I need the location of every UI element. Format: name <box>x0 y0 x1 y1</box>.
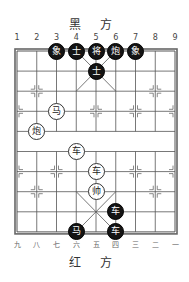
bottom-file-number: 一 <box>169 239 181 249</box>
red-side-label: 红 方 <box>0 253 189 270</box>
black-piece[interactable]: 将 <box>88 43 105 60</box>
black-piece[interactable]: 象 <box>127 43 144 60</box>
black-piece[interactable]: 士 <box>68 43 85 60</box>
black-piece[interactable]: 士 <box>88 63 105 80</box>
red-piece[interactable]: 帅 <box>88 183 105 200</box>
red-piece[interactable]: 车 <box>68 143 85 160</box>
bottom-file-number: 九 <box>11 239 23 249</box>
bottom-file-number: 二 <box>149 239 161 249</box>
bottom-file-number: 三 <box>130 239 142 249</box>
bottom-file-number: 五 <box>90 239 102 249</box>
black-piece[interactable]: 炮 <box>107 43 124 60</box>
red-piece[interactable]: 马 <box>48 103 65 120</box>
bottom-file-number: 六 <box>70 239 82 249</box>
bottom-file-number: 四 <box>110 239 122 249</box>
bottom-file-number: 七 <box>51 239 63 249</box>
red-piece[interactable]: 车 <box>88 163 105 180</box>
bottom-file-number: 八 <box>31 239 43 249</box>
black-piece[interactable]: 象 <box>48 43 65 60</box>
